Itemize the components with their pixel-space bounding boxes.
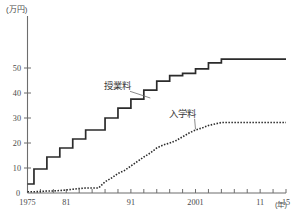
x-axis-ticks [28,189,287,193]
series-annotations: 授業料入学料 [104,80,197,129]
series-label-1: 授業料 [104,80,132,91]
y-tick-label: 20 [13,139,21,148]
series-leader-2 [195,119,196,130]
x-tick-label: 1975 [19,198,35,207]
series-line-2 [28,123,287,192]
y-tick-label: 30 [13,114,21,123]
series-label-2: 入学料 [169,108,197,119]
x-tick-label: 11 [256,198,264,207]
line-chart: 1020304050 1975819120011115 授業料入学料 (万円) … [0,0,294,220]
x-axis-unit-label: (年) [275,200,287,209]
y-tick-label: 10 [13,164,21,173]
chart-axes [28,16,287,193]
series-line-1 [28,59,287,184]
y-axis-origin-label: 0 [16,189,20,198]
y-axis-tick-labels: 1020304050 [13,64,21,173]
y-tick-label: 40 [13,89,21,98]
x-tick-label: 2001 [187,198,203,207]
x-axis-tick-labels: 1975819120011115 [19,198,290,207]
y-axis-unit-label: (万円) [6,5,28,14]
series-leader-1 [130,91,150,98]
x-tick-label: 91 [127,198,135,207]
y-tick-label: 50 [13,64,21,73]
data-series-group [28,59,287,192]
x-tick-label: 81 [62,198,70,207]
chart-container: 1020304050 1975819120011115 授業料入学料 (万円) … [0,0,294,220]
